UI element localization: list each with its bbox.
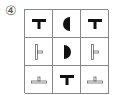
inverted-outline-t-icon [30, 75, 48, 85]
cell-r3-c1 [25, 66, 53, 94]
cell-r1-c3 [81, 10, 109, 38]
cell-r1-c1 [25, 10, 53, 38]
rotated-outline-t-icon [34, 43, 44, 61]
bold-t-icon [87, 18, 103, 30]
figure-grid [24, 9, 108, 93]
cell-r1-c2 [53, 10, 81, 38]
cell-r2-c2 [53, 38, 81, 66]
bold-t-icon [59, 74, 75, 86]
question-number-label: ④ [3, 3, 18, 18]
left-half-circle-icon [62, 16, 72, 32]
bold-t-icon [31, 18, 47, 30]
inverted-outline-t-icon [86, 75, 104, 85]
cell-r2-c3 [81, 38, 109, 66]
cell-r3-c2 [53, 66, 81, 94]
right-half-circle-icon [62, 44, 72, 60]
cell-r3-c3 [81, 66, 109, 94]
rotated-outline-t-icon [90, 43, 100, 61]
cell-r2-c1 [25, 38, 53, 66]
